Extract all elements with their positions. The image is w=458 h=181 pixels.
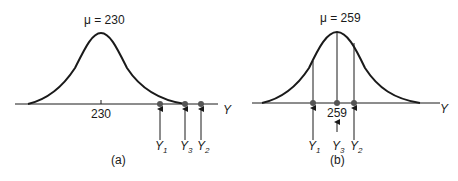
axis-label-a: Y bbox=[223, 103, 232, 117]
caption-b: (b) bbox=[330, 153, 345, 167]
point-y3-b bbox=[334, 100, 340, 106]
point-y2-b bbox=[351, 100, 357, 106]
tick-label-a: 230 bbox=[91, 107, 111, 121]
mean-label-a: μ = 230 bbox=[84, 13, 125, 27]
mean-label-b: μ = 259 bbox=[320, 11, 361, 25]
label-y1-b: Y1 bbox=[308, 139, 320, 155]
axis-label-b: Y bbox=[440, 102, 449, 116]
label-y3-a: Y3 bbox=[180, 139, 193, 155]
point-y1-b bbox=[310, 100, 316, 106]
tick-label-b: 259 bbox=[327, 106, 347, 120]
label-y2-a: Y2 bbox=[197, 139, 210, 155]
normal-curve-a bbox=[28, 33, 185, 104]
point-y3-a bbox=[182, 101, 188, 107]
normal-distribution-figure: μ = 230 230 Y Y1 Y3 Y2 (a) μ = 259 259 Y bbox=[0, 0, 458, 181]
panel-a: μ = 230 230 Y Y1 Y3 Y2 (a) bbox=[15, 13, 232, 167]
panel-b: μ = 259 259 Y Y1 Y3 Y2 (b) bbox=[252, 11, 449, 167]
normal-curve-b bbox=[262, 32, 420, 103]
point-y2-a bbox=[198, 101, 204, 107]
label-y1-a: Y1 bbox=[155, 139, 167, 155]
point-y1-a bbox=[157, 101, 163, 107]
caption-a: (a) bbox=[111, 153, 126, 167]
label-y2-b: Y2 bbox=[350, 139, 363, 155]
